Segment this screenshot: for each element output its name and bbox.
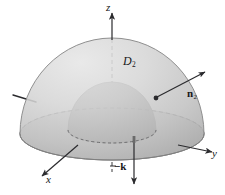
outer-hemisphere [20,38,204,160]
minus-k-pierce-tick [133,136,136,143]
region-label-letter: D [123,54,132,68]
normal-label-subscript: 2 [193,93,197,100]
y-axis-label: y [212,148,217,159]
minus-k-label: −k [114,161,126,172]
normal-vector-label-n2: n2 [187,88,197,100]
figure-canvas: z y x D2 n2 −k [0,0,225,195]
region-label-subscript: 2 [132,60,136,69]
x-axis-label: x [46,174,51,185]
z-axis-label: z [106,2,110,13]
region-label-d2: D2 [123,55,136,68]
